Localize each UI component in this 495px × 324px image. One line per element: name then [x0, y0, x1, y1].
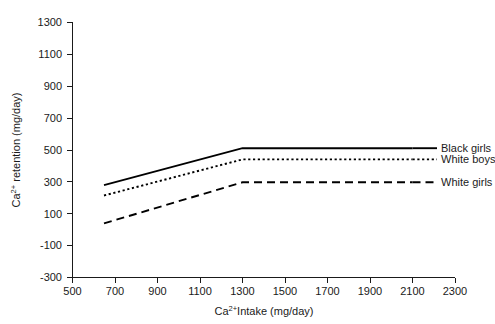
- series-group: [104, 148, 413, 223]
- x-tick-label: 500: [63, 285, 81, 297]
- y-tick-label: 100: [44, 208, 62, 220]
- x-tick-label: 1300: [230, 285, 254, 297]
- x-tick-label: 2300: [443, 285, 467, 297]
- series-line-black-girls: [104, 148, 413, 185]
- y-tick-label: 500: [44, 144, 62, 156]
- series-line-white-girls: [104, 182, 413, 223]
- x-axis-title-prefix: Ca: [214, 305, 229, 317]
- y-tick-labels: 1300 1100 900 700 500 300 100 -100 -300: [38, 16, 62, 283]
- x-axis-title-suffix: Intake (mg/day): [237, 305, 313, 317]
- x-tick-label: 1500: [273, 285, 297, 297]
- y-tick-label: 1100: [38, 48, 62, 60]
- legend-label-white-boys: White boys: [441, 153, 495, 165]
- y-tick-label: 1300: [38, 16, 62, 28]
- y-tick-label: -300: [40, 271, 62, 283]
- x-tick-label: 2100: [400, 285, 424, 297]
- legend: Black girls White boys White girls: [413, 142, 495, 188]
- series-line-white-boys: [104, 159, 413, 195]
- y-axis-title: Ca2+ retention (mg/day): [9, 93, 22, 208]
- chart-figure: 1300 1100 900 700 500 300 100 -100 -300 …: [0, 0, 495, 324]
- y-tick-marks: [67, 23, 73, 278]
- x-tick-label: 900: [148, 285, 166, 297]
- y-tick-label: 700: [44, 112, 62, 124]
- line-chart: 1300 1100 900 700 500 300 100 -100 -300 …: [0, 0, 495, 324]
- x-axis-title: Ca2+Intake (mg/day): [214, 304, 313, 317]
- x-tick-labels: 500 700 900 1100 1300 1500 1700 1900 210…: [63, 285, 467, 297]
- y-tick-label: 300: [44, 176, 62, 188]
- x-tick-label: 1100: [188, 285, 212, 297]
- y-tick-label: -100: [40, 239, 62, 251]
- y-axis-title-prefix: Ca: [10, 193, 22, 208]
- y-tick-label: 900: [44, 80, 62, 92]
- x-tick-label: 1700: [315, 285, 339, 297]
- y-axis-title-suffix: retention (mg/day): [10, 93, 22, 185]
- x-tick-label: 1900: [358, 285, 382, 297]
- x-tick-label: 700: [106, 285, 124, 297]
- legend-label-white-girls: White girls: [441, 176, 493, 188]
- x-tick-marks: [73, 278, 456, 284]
